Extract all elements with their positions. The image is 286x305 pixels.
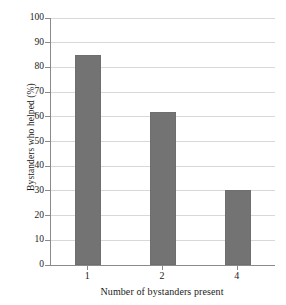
gridline xyxy=(51,18,275,19)
y-axis-tick-label: 50 xyxy=(10,137,44,147)
plot-area xyxy=(50,18,275,266)
y-axis-tick-label: 80 xyxy=(10,62,44,72)
y-axis-tick-label: 90 xyxy=(10,38,44,48)
x-axis-title: Number of bystanders present xyxy=(50,286,274,297)
bar xyxy=(75,55,101,265)
y-axis-tick-label: 0 xyxy=(10,260,44,270)
y-axis-tick-label: 60 xyxy=(10,112,44,122)
y-axis-tick-label: 70 xyxy=(10,87,44,97)
y-axis-tick-label: 100 xyxy=(10,13,44,23)
bar xyxy=(225,190,251,265)
bar-chart: Bystanders who helped (%) 01020304050607… xyxy=(0,0,286,305)
y-axis-tick-label: 20 xyxy=(10,211,44,221)
x-axis-tick-label: 2 xyxy=(142,271,182,281)
gridline xyxy=(51,42,275,43)
y-axis-tick-label: 10 xyxy=(10,235,44,245)
y-axis-tick-label: 30 xyxy=(10,186,44,196)
x-axis-tick-label: 1 xyxy=(67,271,107,281)
bar xyxy=(150,112,176,265)
y-axis-tick-label: 40 xyxy=(10,161,44,171)
x-axis-tick-label: 4 xyxy=(217,271,257,281)
